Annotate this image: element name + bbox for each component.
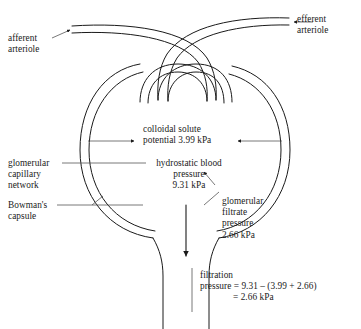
label-bowmans-capsule: Bowman's capsule bbox=[8, 200, 47, 222]
filtration-pressure-equation: filtration pressure = 9.31 – (3.99 + 2.6… bbox=[200, 270, 317, 304]
label-afferent-arteriole: afferent arteriole bbox=[8, 33, 39, 55]
leader-afferent bbox=[52, 30, 70, 38]
label-glomerular-filtrate-pressure: glomerular filtrate pressure 2.66 kPa bbox=[222, 196, 263, 241]
equation-line-2: pressure = 9.31 – (3.99 + 2.66) bbox=[200, 281, 317, 291]
afferent-arteriole-vessel bbox=[72, 25, 216, 101]
label-hydrostatic-blood-pressure: hydrostatic blood pressure 9.31 kPa bbox=[146, 158, 232, 192]
label-glomerular-capillary-network: glomerular capillary network bbox=[8, 158, 49, 192]
equation-line-3: = 2.66 kPa bbox=[200, 292, 317, 303]
glomerular-capillary-network bbox=[140, 64, 232, 103]
label-colloidal-solute-potential: colloidal solute potential 3.99 kPa bbox=[143, 124, 211, 146]
label-efferent-arteriole: efferent arteriole bbox=[297, 14, 328, 36]
diagram-canvas: afferent arteriole efferent arteriole gl… bbox=[0, 0, 361, 329]
leader-filtrate-pressure bbox=[204, 192, 219, 205]
equation-line-1: filtration bbox=[200, 270, 233, 280]
